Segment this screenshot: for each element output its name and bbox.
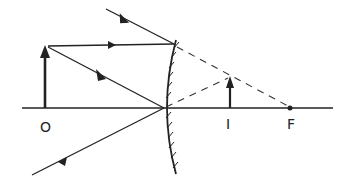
ray-diagram: O I F — [0, 0, 351, 195]
object-label: O — [40, 119, 51, 135]
ray-2-virtual-extension — [166, 78, 228, 107]
ray-1-virtual-extension — [177, 47, 290, 107]
ray-1-reflected — [106, 9, 174, 44]
ray-2-incident — [48, 47, 164, 108]
ray-1-incident — [48, 41, 174, 49]
ray-2-reflected — [32, 108, 164, 175]
image-arrow — [226, 76, 234, 108]
convex-mirror — [166, 40, 179, 174]
image-label: I — [226, 116, 230, 132]
object-arrow — [40, 45, 50, 108]
focal-point — [288, 106, 293, 111]
focus-label: F — [287, 116, 295, 132]
